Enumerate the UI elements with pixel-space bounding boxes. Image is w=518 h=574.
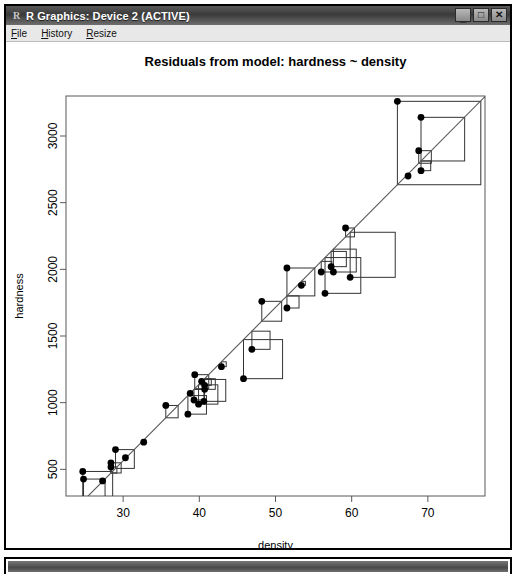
data-point xyxy=(218,363,225,370)
background-window-titlebar[interactable] xyxy=(8,561,508,572)
residual-square xyxy=(325,258,361,294)
data-point xyxy=(201,382,208,389)
x-tick-label: 30 xyxy=(116,506,130,520)
y-tick-label: 3000 xyxy=(46,122,60,149)
data-point xyxy=(284,265,291,272)
data-point xyxy=(415,147,422,154)
window-controls: _ □ ✕ xyxy=(455,8,507,22)
x-tick-label: 40 xyxy=(193,506,207,520)
maximize-button[interactable]: □ xyxy=(473,8,489,22)
fit-line xyxy=(66,97,485,519)
plot-box xyxy=(66,96,485,496)
y-tick-label: 2000 xyxy=(46,256,60,283)
r-logo-icon: R xyxy=(10,9,23,22)
residual-square xyxy=(252,331,270,349)
y-tick-label: 1500 xyxy=(46,322,60,349)
data-point xyxy=(248,346,255,353)
window-titlebar[interactable]: R R Graphics: Device 2 (ACTIVE) _ □ ✕ xyxy=(6,6,510,25)
close-button[interactable]: ✕ xyxy=(491,8,507,22)
data-point xyxy=(191,371,198,378)
data-point xyxy=(112,446,119,453)
y-axis-label: hardness xyxy=(13,273,25,319)
data-point xyxy=(330,269,337,276)
data-point xyxy=(418,114,425,121)
data-point xyxy=(405,173,412,180)
plot-canvas[interactable]: Residuals from model: hardness ~ density… xyxy=(6,42,510,548)
residual-square xyxy=(350,232,395,277)
maximize-icon: □ xyxy=(474,9,488,21)
data-point xyxy=(284,305,291,312)
x-axis-label: density xyxy=(258,539,293,550)
minimize-button[interactable]: _ xyxy=(455,8,471,22)
menu-resize-label: esize xyxy=(94,28,117,39)
r-graphics-window: R R Graphics: Device 2 (ACTIVE) _ □ ✕ Fi… xyxy=(4,4,512,550)
residual-square xyxy=(333,249,356,272)
data-point xyxy=(347,274,354,281)
menu-bar: File History Resize xyxy=(6,25,510,42)
y-tick-label: 2500 xyxy=(46,189,60,216)
data-point xyxy=(79,468,86,475)
data-point xyxy=(80,476,87,483)
data-point xyxy=(258,298,265,305)
x-tick-label: 60 xyxy=(345,506,359,520)
menu-resize-accel: R xyxy=(86,28,93,39)
window-title: R Graphics: Device 2 (ACTIVE) xyxy=(26,10,190,22)
close-icon: ✕ xyxy=(492,9,506,21)
residual-square xyxy=(244,340,283,379)
minimize-icon: _ xyxy=(456,9,470,21)
data-point xyxy=(187,390,194,397)
data-point xyxy=(140,439,147,446)
y-tick-label: 1000 xyxy=(46,389,60,416)
background-window[interactable] xyxy=(4,557,512,574)
plot-title: Residuals from model: hardness ~ density xyxy=(145,54,408,69)
data-point xyxy=(318,269,325,276)
data-point xyxy=(108,459,115,466)
data-point xyxy=(418,167,425,174)
data-point xyxy=(342,225,349,232)
data-point xyxy=(200,398,207,405)
x-tick-label: 50 xyxy=(269,506,283,520)
data-point xyxy=(298,282,305,289)
menu-item-history[interactable]: History xyxy=(41,27,79,40)
menu-item-file[interactable]: File xyxy=(11,27,34,40)
plot-content xyxy=(66,97,485,519)
data-point xyxy=(162,402,169,409)
data-point xyxy=(394,98,401,105)
data-point xyxy=(322,290,329,297)
data-point xyxy=(122,454,129,461)
menu-item-resize[interactable]: Resize xyxy=(86,27,124,40)
x-tick-label: 70 xyxy=(421,506,435,520)
y-tick-label: 500 xyxy=(46,459,60,479)
data-point xyxy=(240,375,247,382)
data-point xyxy=(99,478,106,485)
menu-file-label: ile xyxy=(17,28,27,39)
data-point xyxy=(184,411,191,418)
residual-scatter-plot: Residuals from model: hardness ~ density… xyxy=(6,42,510,550)
menu-history-label: istory xyxy=(48,28,72,39)
